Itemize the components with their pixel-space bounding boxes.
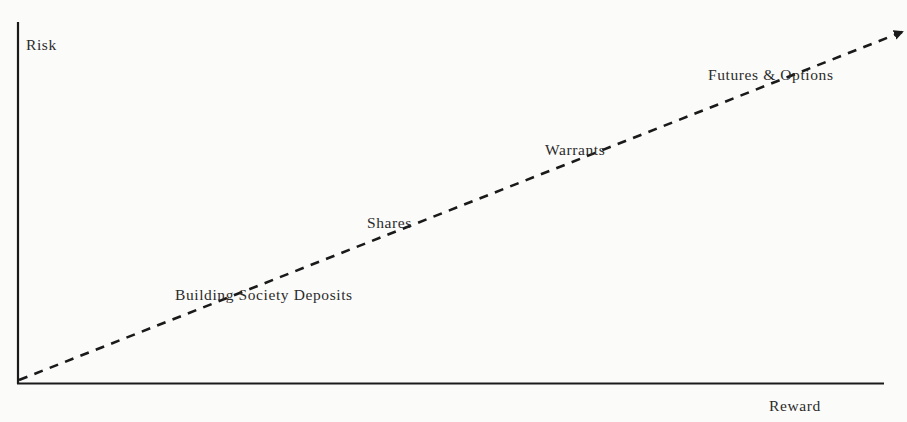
item-label-building-society-deposits: Building Society Deposits	[175, 287, 353, 303]
y-axis-label: Risk	[26, 37, 57, 53]
diagram-graphics	[0, 0, 907, 422]
risk-reward-diagram: Risk Reward Building Society Deposits Sh…	[0, 0, 907, 422]
item-label-warrants: Warrants	[545, 142, 605, 158]
item-label-futures-options: Futures & Options	[708, 67, 834, 83]
risk-reward-arrow	[19, 32, 902, 380]
x-axis-label: Reward	[769, 398, 821, 414]
item-label-shares: Shares	[367, 215, 412, 231]
